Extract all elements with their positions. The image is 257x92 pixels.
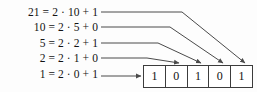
binary-expansion-figure: 21 = 2 · 10 + 1 10 = 2 · 5 + 0 5 = 2 · 2… — [0, 0, 257, 92]
bit-cell: 1 — [188, 66, 210, 87]
bit-cell: 0 — [209, 66, 231, 87]
equation-row: 2 = 2 · 1 + 0 — [40, 52, 98, 65]
connector-line-eq-5 — [101, 43, 201, 63]
equation-row: 1 = 2 · 0 + 1 — [40, 68, 98, 81]
bit-cell: 1 — [231, 66, 252, 87]
equation-row: 5 = 2 · 2 + 1 — [40, 37, 98, 50]
bit-cell: 0 — [166, 66, 188, 87]
connector-line-eq-21 — [101, 12, 245, 63]
bit-cell: 1 — [144, 66, 166, 87]
equation-row: 10 = 2 · 5 + 0 — [34, 21, 98, 34]
connector-line-eq-2 — [101, 58, 179, 63]
binary-result-box: 1 0 1 0 1 — [143, 65, 253, 88]
equation-row: 21 = 2 · 10 + 1 — [28, 6, 98, 19]
